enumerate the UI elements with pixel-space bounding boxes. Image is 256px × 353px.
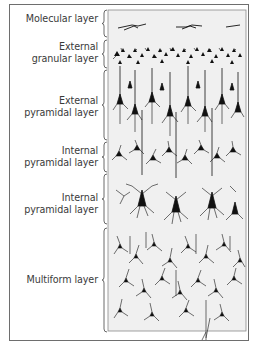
label-line: External	[32, 41, 98, 53]
label-line: Multiform layer	[27, 274, 98, 286]
label-multiform-layer: Multiform layer	[27, 274, 98, 286]
label-external-granular-layer: External granular layer	[32, 41, 98, 65]
label-line: External	[24, 95, 98, 107]
cortex-panel	[108, 10, 246, 331]
label-external-pyramidal-layer: External pyramidal layer	[24, 95, 98, 119]
layer-braces	[102, 10, 107, 332]
label-line: pyramidal layer	[24, 107, 98, 119]
label-internal-pyramidal-layer-1: Internal pyramidal layer	[24, 145, 98, 169]
label-internal-pyramidal-layer-2: Internal pyramidal layer	[24, 192, 98, 216]
label-molecular-layer: Molecular layer	[26, 13, 98, 25]
label-line: pyramidal layer	[24, 157, 98, 169]
label-line: granular layer	[32, 53, 98, 65]
label-line: Internal	[24, 145, 98, 157]
label-line: pyramidal layer	[24, 204, 98, 216]
label-line: Molecular layer	[26, 13, 98, 25]
label-line: Internal	[24, 192, 98, 204]
